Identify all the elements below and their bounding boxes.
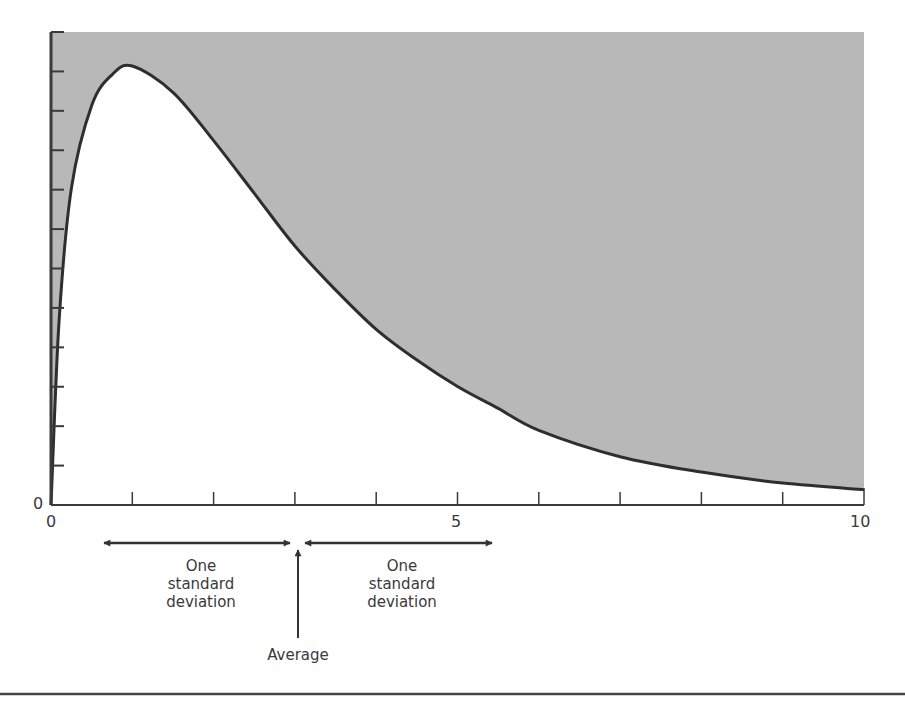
x-tick-label-0: 0 xyxy=(46,512,56,531)
average-label: Average xyxy=(248,646,348,664)
right-sd-line-1: One xyxy=(347,557,457,575)
left-sd-label: One standard deviation xyxy=(146,557,256,611)
x-axis xyxy=(51,492,864,505)
x-tick-label-5: 5 xyxy=(451,512,461,531)
left-sd-line-2: standard xyxy=(146,575,256,593)
x-tick-label-10: 10 xyxy=(850,512,870,531)
left-sd-line-1: One xyxy=(146,557,256,575)
left-sd-line-3: deviation xyxy=(146,593,256,611)
right-sd-line-2: standard xyxy=(347,575,457,593)
right-sd-label: One standard deviation xyxy=(347,557,457,611)
right-sd-line-3: deviation xyxy=(347,593,457,611)
y-tick-label-zero: 0 xyxy=(33,494,43,513)
shaded-region xyxy=(51,32,864,505)
